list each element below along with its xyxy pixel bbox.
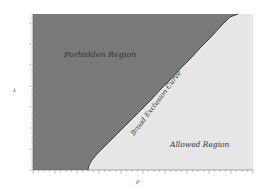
x-ticks xyxy=(33,170,253,174)
allowed-region-label: Allowed Region xyxy=(169,140,230,149)
y-ticks xyxy=(29,14,33,170)
forbidden-region-label: Forbidden Region xyxy=(63,50,137,59)
y-axis-label: λ xyxy=(12,87,16,93)
x-axis-label: P xyxy=(135,179,140,185)
exclusion-chart: Forbidden Region Allowed Region Broad Ex… xyxy=(0,0,264,193)
